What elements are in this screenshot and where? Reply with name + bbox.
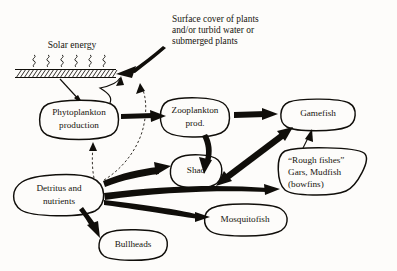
- node-detritus-line-1: Detritus and: [36, 183, 82, 193]
- node-detritus-and-nutrients[interactable]: Detritus and nutrients: [14, 175, 104, 216]
- water-surface-hatching: [15, 69, 117, 78]
- surface-cover-line-1: Surface cover of plants: [172, 14, 259, 24]
- solar-ray-icons: [33, 55, 105, 67]
- node-phytoplankton-production[interactable]: Phytoplankton production: [40, 100, 119, 139]
- node-zooplankton-line-2: prod.: [185, 118, 204, 128]
- node-zooplankton-line-1: Zooplankton: [172, 105, 219, 115]
- node-mosquitofish[interactable]: Mosquitofish: [205, 204, 287, 236]
- food-web-diagram: Solar energy Surface cover of plants and…: [0, 0, 397, 271]
- edge-surface-cover-to-surface-head: [116, 66, 136, 78]
- surface-cover-line-2: and/or turbid water or: [172, 25, 255, 35]
- edge-phytoplankton-to-surface: [100, 78, 120, 103]
- edge-detritus-to-rough-fishes: [104, 184, 280, 200]
- solar-energy-label: Solar energy: [48, 39, 97, 50]
- node-phytoplankton-line-1: Phytoplankton: [52, 107, 106, 117]
- edge-detritus-to-mosquitofish: [104, 200, 210, 222]
- node-mosquitofish-label: Mosquitofish: [220, 214, 269, 224]
- node-shad[interactable]: Shad: [170, 155, 221, 188]
- edge-rough-fishes-to-gamefish: [303, 129, 313, 148]
- edge-detritus-to-phytoplankton-head: [89, 142, 97, 151]
- surface-cover-line-3: submerged plants: [172, 36, 238, 46]
- node-bullheads-label: Bullheads: [115, 239, 152, 249]
- water-surface-group: Solar energy: [15, 39, 117, 78]
- surface-cover-caption: Surface cover of plants and/or turbid wa…: [172, 14, 259, 46]
- edge-zooplankton-to-gamefish: [234, 108, 278, 120]
- node-gamefish[interactable]: Gamefish: [281, 99, 355, 131]
- edge-phytoplankton-to-zooplankton: [121, 110, 166, 122]
- node-zooplankton-production[interactable]: Zooplankton prod.: [160, 98, 229, 137]
- edge-detritus-to-shad: [103, 162, 171, 187]
- node-phytoplankton-line-2: production: [59, 120, 99, 130]
- node-rough-fishes-line-2: Gars, Mudfish: [288, 167, 341, 177]
- node-gamefish-label: Gamefish: [300, 108, 336, 118]
- node-rough-fishes-line-1: “Rough fishes”: [288, 155, 344, 165]
- node-bullheads[interactable]: Bullheads: [99, 230, 167, 261]
- node-detritus-line-2: nutrients: [43, 196, 76, 206]
- node-rough-fishes[interactable]: “Rough fishes” Gars, Mudfish (bowfins): [278, 148, 366, 195]
- node-rough-fishes-line-3: (bowfins): [288, 179, 324, 189]
